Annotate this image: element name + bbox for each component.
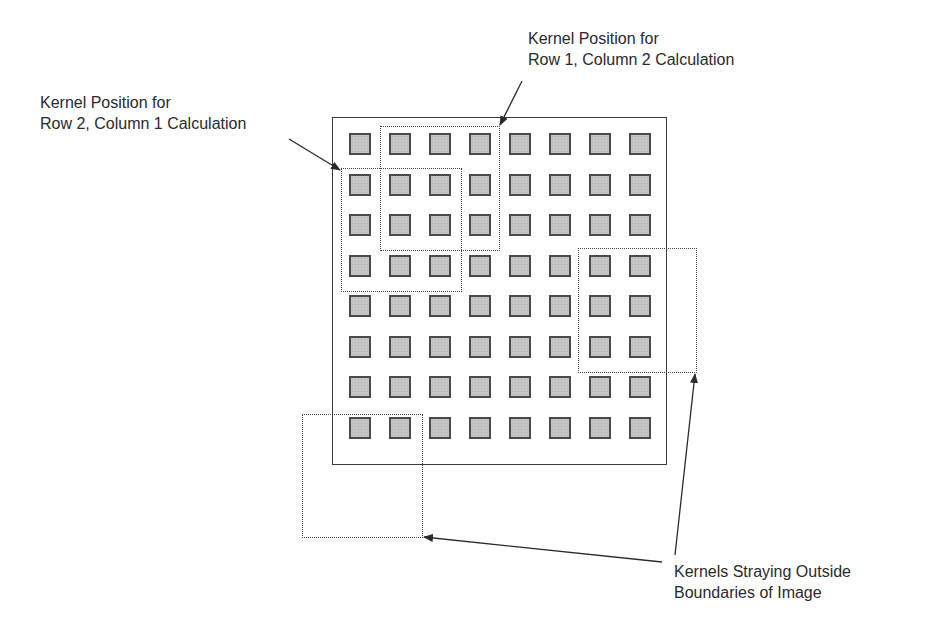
arrow-stray-bottom-left: [424, 537, 662, 562]
arrows-layer: [0, 0, 933, 632]
arrow-row2-col1: [289, 139, 340, 170]
arrow-stray-right: [675, 374, 695, 555]
arrow-row1-col2: [500, 81, 522, 125]
